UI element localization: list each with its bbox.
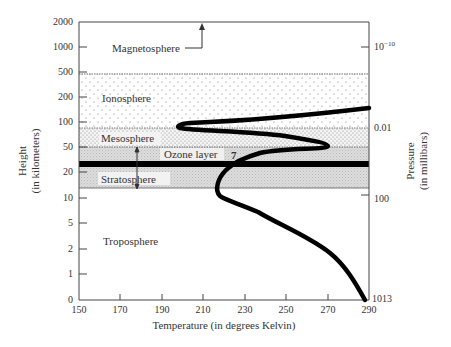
label-troposphere: Troposphere <box>103 235 158 247</box>
label-ionosphere: Ionosphere <box>102 92 151 104</box>
y-tick-2: 2 <box>68 243 73 254</box>
x-tick-190: 190 <box>155 304 170 315</box>
y2-tick-1013: 1013 <box>372 293 392 304</box>
x-tick-170: 170 <box>113 304 128 315</box>
y2-axis-title: Pressure (in millibars) <box>404 132 430 190</box>
y-axis-tick-labels: 2000 1000 500 200 100 50 20 10 5 2 1 0 <box>53 16 73 305</box>
y-tick-10: 10 <box>63 192 73 203</box>
y2-axis-tick-labels: 10−10 0.01 100 1013 <box>372 40 395 304</box>
y-tick-100: 100 <box>58 116 73 127</box>
y-tick-1000: 1000 <box>53 41 73 52</box>
y2-tick-100: 100 <box>374 193 389 204</box>
y2-tick-0.01: 0.01 <box>374 122 392 133</box>
label-ozone-mark: 7 <box>231 149 237 161</box>
y2-tick-1e-10: 10−10 <box>374 40 395 52</box>
x-axis-tick-labels: 150 170 190 210 230 250 270 290 <box>72 304 377 315</box>
x-tick-270: 270 <box>321 304 336 315</box>
x-tick-210: 210 <box>196 304 211 315</box>
y-tick-5: 5 <box>68 217 73 228</box>
y-tick-500: 500 <box>58 66 73 77</box>
x-axis-ticks <box>120 294 328 300</box>
y-tick-50: 50 <box>63 141 73 152</box>
x-tick-230: 230 <box>238 304 253 315</box>
magnetosphere-arrow <box>185 27 202 48</box>
y-axis-title: Height (in kilometers) <box>16 128 42 193</box>
y-axis-title-main: Height <box>16 146 28 176</box>
y-axis-title-sub: (in kilometers) <box>29 128 42 193</box>
y2-axis-title-main: Pressure <box>404 142 416 179</box>
y-tick-20: 20 <box>63 166 73 177</box>
label-magnetosphere: Magnetosphere <box>112 42 180 54</box>
x-tick-250: 250 <box>279 304 294 315</box>
y-tick-200: 200 <box>58 91 73 102</box>
label-mesosphere: Mesosphere <box>101 132 154 144</box>
y-tick-1: 1 <box>68 268 73 279</box>
label-stratosphere: Stratosphere <box>101 173 156 185</box>
atmosphere-temperature-chart: 2000 1000 500 200 100 50 20 10 5 2 1 0 1… <box>0 0 451 347</box>
x-tick-290: 290 <box>362 304 377 315</box>
y2-axis-title-sub: (in millibars) <box>417 132 430 190</box>
magnetosphere-arrowhead <box>199 23 205 30</box>
ozone-thick-line <box>79 161 369 167</box>
x-axis-title: Temperature (in degrees Kelvin) <box>152 319 295 332</box>
y-tick-2000: 2000 <box>53 16 73 27</box>
x-tick-150: 150 <box>72 304 87 315</box>
label-ozone-layer: Ozone layer <box>164 148 218 160</box>
